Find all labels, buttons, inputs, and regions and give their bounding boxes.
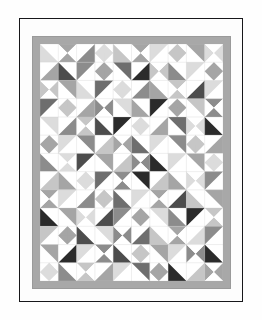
quilt-pattern-svg xyxy=(40,44,223,281)
quilt-illustration-page xyxy=(0,0,262,320)
quilt-field xyxy=(40,44,223,281)
frame-mat xyxy=(20,19,242,301)
quilt-outer-border xyxy=(32,36,231,289)
picture-frame xyxy=(19,18,243,302)
